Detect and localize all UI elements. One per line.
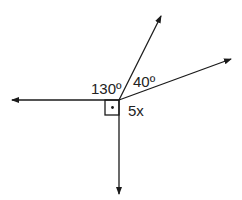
- angle-diagram: [0, 0, 242, 200]
- angle-label-40: 40º: [133, 74, 155, 89]
- right-angle-dot: [111, 106, 114, 109]
- angle-label-130: 130º: [91, 81, 122, 96]
- angle-label-5x: 5x: [128, 103, 144, 118]
